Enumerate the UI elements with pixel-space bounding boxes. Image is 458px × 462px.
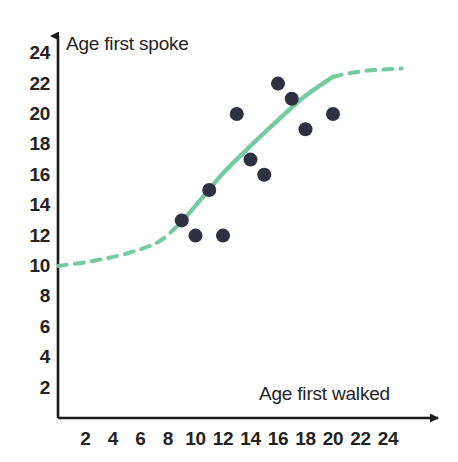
data-point <box>202 183 216 197</box>
y-axis-tick-label: 8 <box>10 285 50 307</box>
x-axis-tick-label: 2 <box>80 428 90 450</box>
x-axis-tick-label: 6 <box>135 428 145 450</box>
data-point <box>299 122 313 136</box>
y-axis-tick-label: 2 <box>10 377 50 399</box>
x-axis-tick-label: 22 <box>350 428 371 450</box>
x-axis-tick-label: 16 <box>268 428 289 450</box>
x-axis-title: Age first walked <box>259 383 390 405</box>
y-axis-tick-label: 12 <box>10 225 50 247</box>
data-point <box>257 168 271 182</box>
trend-line-dashed-right <box>333 68 402 76</box>
data-point <box>326 107 340 121</box>
trend-line-solid <box>182 77 333 222</box>
y-axis-tick-label: 6 <box>10 316 50 338</box>
data-point <box>271 77 285 91</box>
y-axis-tick-label: 14 <box>10 194 50 216</box>
x-axis-tick-label: 4 <box>108 428 118 450</box>
y-axis-tick-label: 4 <box>10 346 50 368</box>
data-point-group <box>175 77 340 243</box>
y-axis-tick-label: 24 <box>10 42 50 64</box>
x-axis-tick-label: 12 <box>213 428 234 450</box>
y-axis-tick-label: 16 <box>10 164 50 186</box>
data-point <box>285 92 299 106</box>
axis-lines <box>58 36 438 418</box>
scatter-plot-figure: 24222018161412108642 2468101214161820222… <box>0 0 458 462</box>
trend-line-dashed-left <box>58 222 182 266</box>
x-axis-tick-label: 14 <box>240 428 261 450</box>
y-axis-title: Age first spoke <box>66 33 189 55</box>
x-axis-tick-label: 20 <box>323 428 344 450</box>
data-point <box>189 229 203 243</box>
data-point <box>244 153 258 167</box>
x-axis-tick-label: 18 <box>295 428 316 450</box>
data-point <box>230 107 244 121</box>
x-axis-tick-label: 24 <box>378 428 399 450</box>
y-axis-tick-label: 10 <box>10 255 50 277</box>
data-point <box>175 213 189 227</box>
y-axis-tick-label: 18 <box>10 133 50 155</box>
x-axis-tick-label: 10 <box>185 428 206 450</box>
y-axis-tick-label: 22 <box>10 73 50 95</box>
x-axis-tick-label: 8 <box>163 428 173 450</box>
y-axis-tick-label: 20 <box>10 103 50 125</box>
data-point <box>216 229 230 243</box>
